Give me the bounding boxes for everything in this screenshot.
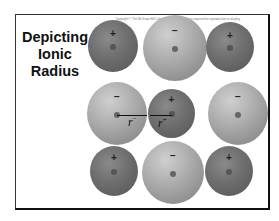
cation-sphere: + [148,89,195,138]
cation-radius-label: r+ [158,116,167,131]
anion-sphere: − [142,141,204,204]
nucleus-dot [172,46,178,52]
cation-sphere: + [205,146,253,196]
anion-sphere: − [87,82,147,145]
anion-sphere: − [143,15,207,81]
plus-charge-icon: + [110,29,116,39]
plus-charge-icon: + [227,31,233,41]
nucleus-dot [170,171,176,177]
title-line-1: Depicting [19,29,91,46]
minus-charge-icon: − [114,92,120,102]
cation-sphere: + [90,146,138,196]
nucleus-dot [111,169,117,175]
title-line-2: Ionic [19,46,91,63]
minus-charge-icon: − [170,151,176,161]
plus-charge-icon: + [111,153,117,163]
anion-sphere: − [208,82,268,145]
nucleus-dot [226,169,232,175]
anion-radius-label: r− [128,115,137,130]
plus-charge-icon: + [226,153,232,163]
nucleus-dot [235,112,241,118]
minus-charge-icon: − [235,92,241,102]
cation-sphere: + [88,20,138,72]
nucleus-dot [227,45,233,51]
slide-title: Depicting Ionic Radius [19,29,91,80]
slide-frame: Copyright © The McGraw-Hill Companies, I… [15,14,270,210]
cation-sphere: + [206,22,254,72]
nucleus-dot [110,44,116,50]
plus-charge-icon: + [169,95,175,105]
minus-charge-icon: − [172,26,178,36]
title-line-3: Radius [19,63,91,80]
